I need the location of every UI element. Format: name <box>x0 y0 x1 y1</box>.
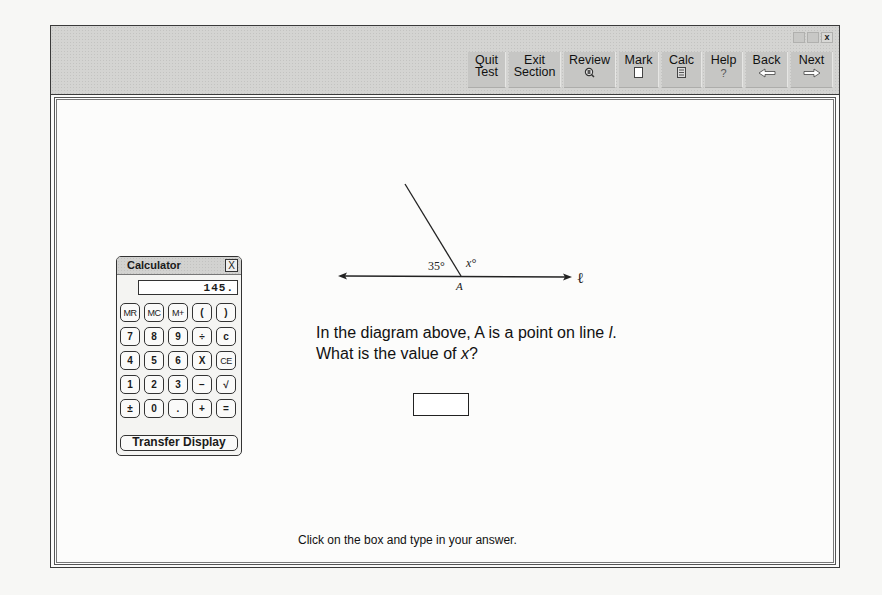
key-equals[interactable]: = <box>216 399 236 418</box>
key-8[interactable]: 8 <box>144 327 164 346</box>
key-2[interactable]: 2 <box>144 375 164 394</box>
next-button[interactable]: Next <box>791 52 833 88</box>
right-arrow-icon <box>803 67 821 78</box>
mark-label: Mark <box>625 54 653 66</box>
calc-label: Calc <box>669 54 694 66</box>
calculator-display: 145. <box>138 280 238 295</box>
key-multiply[interactable]: X <box>192 351 212 370</box>
key-plus[interactable]: + <box>192 399 212 418</box>
key-open-paren[interactable]: ( <box>192 303 212 322</box>
calculator-keypad: MR MC M+ ( ) 7 8 9 ÷ c 4 5 6 X CE 1 2 3 … <box>120 303 238 418</box>
calculator-title: Calculator <box>127 259 181 271</box>
question-text: In the diagram above, A is a point on li… <box>316 322 617 364</box>
key-minus[interactable]: − <box>192 375 212 394</box>
left-arrow-icon <box>758 67 776 78</box>
key-plus-minus[interactable]: ± <box>120 399 140 418</box>
question-line2-suffix: ? <box>469 345 478 362</box>
key-5[interactable]: 5 <box>144 351 164 370</box>
toolbar-buttons: Quit Test Exit Section Review Mark Cal <box>468 52 833 88</box>
help-button[interactable]: Help ? <box>705 52 743 88</box>
next-label: Next <box>799 54 825 66</box>
key-6[interactable]: 6 <box>168 351 188 370</box>
minimize-button[interactable] <box>793 32 805 43</box>
key-1[interactable]: 1 <box>120 375 140 394</box>
key-sqrt[interactable]: √ <box>216 375 236 394</box>
key-7[interactable]: 7 <box>120 327 140 346</box>
help-label: Help <box>711 54 737 66</box>
key-0[interactable]: 0 <box>144 399 164 418</box>
question-line-2: What is the value of x? <box>316 343 617 364</box>
key-close-paren[interactable]: ) <box>216 303 236 322</box>
answer-input[interactable] <box>413 393 469 416</box>
back-button[interactable]: Back <box>746 52 788 88</box>
mark-button[interactable]: Mark <box>619 52 659 88</box>
quit-label-line2: Test <box>475 66 498 78</box>
key-mr[interactable]: MR <box>120 303 140 322</box>
x-variable: x <box>461 345 469 362</box>
key-decimal[interactable]: . <box>168 399 188 418</box>
exit-label-line2: Section <box>514 66 556 78</box>
review-icon <box>584 67 595 78</box>
calc-button[interactable]: Calc <box>662 52 702 88</box>
mark-icon <box>634 67 643 78</box>
key-3[interactable]: 3 <box>168 375 188 394</box>
back-label: Back <box>753 54 781 66</box>
calculator-panel[interactable]: Calculator X 145. MR MC M+ ( ) 7 8 9 ÷ c… <box>116 256 242 456</box>
key-4[interactable]: 4 <box>120 351 140 370</box>
calculator-title-bar[interactable]: Calculator X <box>117 257 241 275</box>
key-mplus[interactable]: M+ <box>168 303 188 322</box>
question-line1-text: In the diagram above, A is a point on li… <box>316 324 609 341</box>
calculator-close-button[interactable]: X <box>225 259 238 272</box>
toolbar: x Quit Test Exit Section Review Mark <box>51 26 839 95</box>
key-divide[interactable]: ÷ <box>192 327 212 346</box>
window-controls: x <box>793 32 833 43</box>
review-label: Review <box>569 54 610 66</box>
calculator-icon <box>677 67 686 78</box>
question-line1-suffix: . <box>612 324 616 341</box>
question-line-1: In the diagram above, A is a point on li… <box>316 322 617 343</box>
key-mc[interactable]: MC <box>144 303 164 322</box>
transfer-display-button[interactable]: Transfer Display <box>120 435 238 451</box>
key-clear-entry[interactable]: CE <box>216 351 236 370</box>
question-icon: ? <box>720 67 726 78</box>
question-line2-text: What is the value of <box>316 345 461 362</box>
quit-test-button[interactable]: Quit Test <box>468 52 506 88</box>
key-clear[interactable]: c <box>216 327 236 346</box>
maximize-button[interactable] <box>807 32 819 43</box>
close-window-button[interactable]: x <box>821 32 833 43</box>
instruction-text: Click on the box and type in your answer… <box>298 533 517 547</box>
key-9[interactable]: 9 <box>168 327 188 346</box>
review-button[interactable]: Review <box>564 52 616 88</box>
exit-section-button[interactable]: Exit Section <box>509 52 561 88</box>
